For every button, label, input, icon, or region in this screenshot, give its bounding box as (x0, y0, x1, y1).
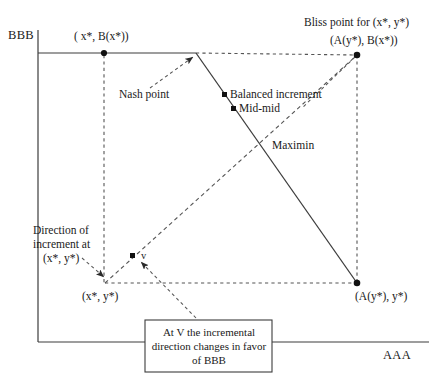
nash-point-label: Nash point (119, 88, 169, 102)
direction-of-increment-label-line3: (x*, y*) (43, 252, 79, 266)
origin-point-label: (x*, y*) (82, 290, 118, 304)
direction-of-increment-label-line2: increment at (33, 238, 90, 252)
nash-point-leader-arrow (150, 57, 193, 88)
top-left-point-marker (101, 50, 107, 56)
direction-of-increment-label-line1: Direction of (33, 224, 89, 238)
callout-box-text: At V the incremental direction changes i… (146, 322, 272, 372)
mid-mid-label: Mid-mid (239, 102, 280, 116)
x-axis-label: AAA (383, 348, 411, 363)
mid-mid-point-marker (231, 106, 236, 111)
bottom-right-point-label: (A(y*), y*) (355, 290, 407, 304)
top-left-point-label: ( x*, B(x*)) (74, 30, 129, 44)
maximin-label: Maximin (272, 139, 314, 153)
balanced-increment-point-marker (222, 92, 227, 97)
direction-of-increment-leader-arrow (82, 258, 104, 277)
y-axis-label: BBB (8, 28, 34, 43)
callout-leader-arrow (141, 262, 196, 318)
bottom-right-point-marker (354, 280, 361, 287)
bliss-point-caption: Bliss point for (x*, y*) (304, 16, 409, 30)
v-point-marker (130, 253, 135, 258)
points-group (101, 50, 360, 286)
top-dashed-line (196, 53, 357, 55)
figure-canvas: BBB AAA ( x*, B(x*)) Bliss point for (x*… (0, 0, 429, 385)
bliss-point-coords-label: (A(y*), B(x*)) (330, 34, 398, 48)
balanced-increment-label: Balanced increment (230, 88, 322, 102)
v-point-label: v (141, 250, 146, 262)
bliss-point-marker (354, 52, 361, 59)
